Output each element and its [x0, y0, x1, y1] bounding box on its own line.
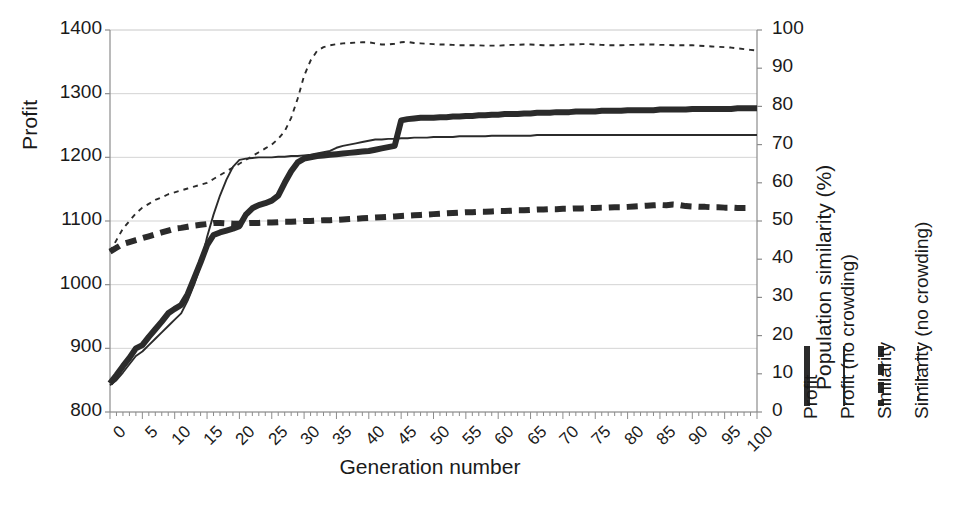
legend-item-label: Similarity (no crowding) [911, 222, 933, 419]
legend-item-label: Profit (no crowding) [837, 254, 859, 419]
chart-root: Profit Population similarity (%) Generat… [0, 0, 958, 510]
legend-item-label: Similarity [874, 342, 896, 419]
chart-legend: ProfitProfit (no crowding)SimilaritySimi… [790, 0, 958, 510]
legend-item-label: Profit [800, 375, 822, 419]
